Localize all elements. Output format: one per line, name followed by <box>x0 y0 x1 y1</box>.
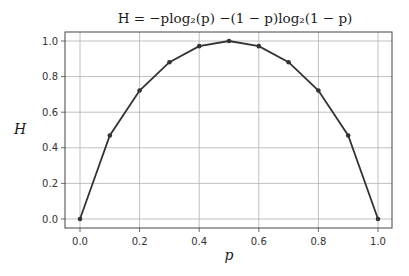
y-tick-label: 0.2 <box>42 178 58 189</box>
data-point <box>137 88 142 93</box>
x-tick-label: 0.8 <box>310 236 326 247</box>
x-tick-label: 0.0 <box>72 236 88 247</box>
x-tick-label: 1.0 <box>370 236 386 247</box>
y-tick-label: 0.4 <box>42 142 58 153</box>
data-point <box>108 133 113 138</box>
entropy-chart: H = −plog₂(p) −(1 − p)log₂(1 − p) 0.00.2… <box>0 0 409 276</box>
entropy-line <box>80 41 378 219</box>
x-tick-label: 0.2 <box>132 236 148 247</box>
x-tick-label: 0.4 <box>191 236 207 247</box>
x-axis-label: p <box>225 247 234 263</box>
data-point-markers <box>78 39 381 222</box>
data-point <box>227 39 232 44</box>
data-point <box>78 217 83 222</box>
data-point <box>167 60 172 65</box>
y-axis-ticks: 0.00.20.40.60.81.0 <box>42 36 65 225</box>
chart-title: H = −plog₂(p) −(1 − p)log₂(1 − p) <box>118 10 353 26</box>
y-tick-label: 0.8 <box>42 71 58 82</box>
data-point <box>316 88 321 93</box>
data-point <box>346 133 351 138</box>
data-point <box>376 217 381 222</box>
data-point <box>257 44 262 49</box>
data-point <box>197 44 202 49</box>
y-axis-label: H <box>13 121 27 137</box>
y-tick-label: 0.6 <box>42 107 58 118</box>
y-tick-label: 1.0 <box>42 36 58 47</box>
x-axis-ticks: 0.00.20.40.60.81.0 <box>72 228 386 247</box>
y-tick-label: 0.0 <box>42 214 58 225</box>
x-tick-label: 0.6 <box>251 236 267 247</box>
data-point <box>286 60 291 65</box>
